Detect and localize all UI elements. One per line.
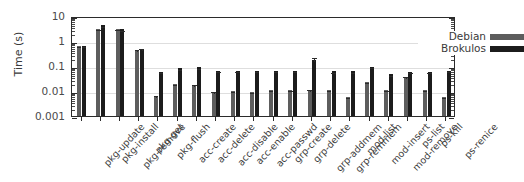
- error-bar-cap: [159, 73, 163, 74]
- bar: [212, 92, 216, 116]
- axis-minor-tick: [451, 110, 454, 111]
- y-tick-label: 0.1: [19, 60, 65, 72]
- bar: [389, 74, 393, 116]
- gridline: [72, 93, 454, 94]
- bar: [332, 71, 336, 116]
- axis-minor-tick: [451, 60, 454, 61]
- error-bar-cap: [427, 73, 431, 74]
- error-bar-cap: [235, 72, 239, 73]
- bar: [370, 67, 374, 116]
- bar: [192, 85, 196, 116]
- bar: [101, 25, 105, 116]
- error-bar-cap: [120, 31, 124, 32]
- axis-minor-tick: [451, 97, 454, 98]
- x-axis-tick: [388, 117, 389, 121]
- gridline: [72, 68, 454, 69]
- x-axis-tick: [407, 117, 408, 121]
- error-bar-cap: [408, 73, 412, 74]
- error-bar-cap: [139, 49, 143, 50]
- error-bar-cap: [101, 27, 105, 28]
- bar: [365, 82, 369, 116]
- axis-minor-tick: [72, 49, 75, 50]
- error-bar-cap: [173, 85, 177, 86]
- y-tick-label: 10: [19, 10, 65, 22]
- bar: [120, 29, 124, 116]
- axis-minor-tick: [72, 110, 75, 111]
- error-bar-cap: [365, 83, 369, 84]
- axis-minor-tick: [72, 69, 75, 70]
- axis-minor-tick: [72, 94, 75, 95]
- axis-minor-tick: [72, 78, 75, 79]
- error-bar-cap: [96, 30, 100, 31]
- error-bar-cap: [403, 77, 407, 78]
- bar: [351, 71, 355, 116]
- error-bar-cap: [442, 98, 446, 99]
- axis-minor-tick: [72, 20, 75, 21]
- bar: [274, 71, 278, 116]
- error-bar-cap: [82, 47, 86, 48]
- bar: [288, 90, 292, 116]
- x-axis-tick: [234, 117, 235, 121]
- bar: [442, 97, 446, 116]
- axis-minor-tick: [451, 69, 454, 70]
- axis-minor-tick: [72, 22, 75, 23]
- x-axis-tick: [119, 117, 120, 121]
- axis-minor-tick: [451, 101, 454, 102]
- bar: [250, 92, 254, 116]
- axis-minor-tick: [72, 101, 75, 102]
- x-tick-label: ps-renice: [462, 121, 500, 160]
- axis-tick: [72, 118, 77, 119]
- gridline: [72, 43, 454, 44]
- axis-tick: [449, 118, 454, 119]
- axis-minor-tick: [72, 76, 75, 77]
- bar: [327, 90, 331, 116]
- axis-minor-tick: [72, 60, 75, 61]
- axis-minor-tick: [72, 72, 75, 73]
- bar: [159, 72, 163, 116]
- plot-area: Debian Brokulos: [71, 17, 455, 117]
- bar: [423, 90, 427, 116]
- bar: [154, 96, 158, 116]
- bar: [197, 67, 201, 116]
- bar: [384, 90, 388, 116]
- x-axis-tick: [311, 117, 312, 121]
- x-axis-tick: [177, 117, 178, 121]
- error-bar-cap: [447, 72, 451, 73]
- axis-minor-tick: [451, 22, 454, 23]
- legend-swatch-debian: [490, 34, 524, 40]
- x-axis-tick: [369, 117, 370, 121]
- bar: [346, 97, 350, 116]
- bar: [96, 29, 100, 116]
- error-bar-cap: [288, 91, 292, 92]
- chart-legend: Debian Brokulos: [418, 31, 524, 55]
- error-bar-cap: [135, 50, 139, 51]
- axis-minor-tick: [451, 56, 454, 57]
- axis-minor-tick: [451, 85, 454, 86]
- axis-minor-tick: [72, 70, 75, 71]
- axis-minor-tick: [72, 103, 75, 104]
- error-bar-cap: [346, 98, 350, 99]
- error-bar-cap: [307, 90, 311, 91]
- legend-item-brokulos: Brokulos: [418, 43, 524, 54]
- axis-minor-tick: [72, 97, 75, 98]
- axis-minor-tick: [72, 53, 75, 54]
- error-bar-cap: [384, 91, 388, 92]
- axis-minor-tick: [72, 24, 75, 25]
- error-bar-cap: [269, 91, 273, 92]
- axis-minor-tick: [451, 28, 454, 29]
- x-axis-tick: [196, 117, 197, 121]
- bar: [308, 90, 312, 116]
- bar: [428, 72, 432, 116]
- error-bar-cap: [77, 47, 81, 48]
- bar: [404, 77, 408, 116]
- y-tick-label: 0.01: [19, 85, 65, 97]
- axis-minor-tick: [72, 99, 75, 100]
- axis-minor-tick: [451, 76, 454, 77]
- axis-minor-tick: [72, 106, 75, 107]
- axis-minor-tick: [72, 85, 75, 86]
- axis-minor-tick: [72, 31, 75, 32]
- axis-minor-tick: [451, 99, 454, 100]
- error-bar-cap: [211, 92, 215, 93]
- error-bar-cap: [389, 76, 393, 77]
